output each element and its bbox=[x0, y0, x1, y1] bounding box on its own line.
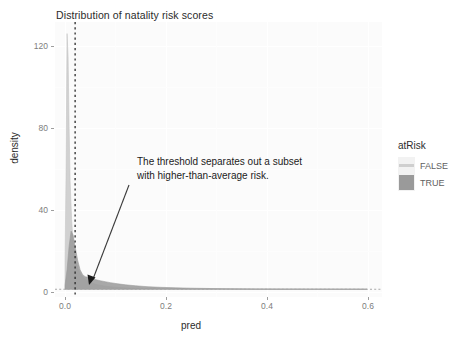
legend-label-false: FALSE bbox=[420, 161, 448, 171]
chart-title: Distribution of natality risk scores bbox=[56, 9, 213, 21]
x-tick-label-0.0: 0.0 bbox=[45, 301, 85, 311]
y-tick-label-80: 80 bbox=[14, 123, 48, 133]
annotation-text: The threshold separates out a subset wit… bbox=[137, 155, 302, 183]
y-tick-mark-80 bbox=[51, 128, 54, 129]
y-tick-mark-40 bbox=[51, 210, 54, 211]
legend-swatch-false bbox=[398, 157, 415, 174]
y-tick-label-40: 40 bbox=[14, 205, 48, 215]
x-tick-mark-0.4 bbox=[267, 297, 268, 300]
legend-item-false[interactable]: FALSE bbox=[398, 157, 448, 174]
chart-root: Distribution of natality risk scores den… bbox=[0, 0, 462, 344]
x-tick-label-0.6: 0.6 bbox=[348, 301, 388, 311]
y-tick-label-120: 120 bbox=[14, 41, 48, 51]
legend: atRisk FALSE TRUE bbox=[398, 140, 448, 191]
x-tick-mark-0.0 bbox=[65, 297, 66, 300]
y-tick-label-0: 0 bbox=[14, 287, 48, 297]
annotation-line-2: with higher-than-average risk. bbox=[137, 169, 302, 183]
x-tick-label-0.2: 0.2 bbox=[146, 301, 186, 311]
x-axis-label: pred bbox=[0, 320, 382, 331]
legend-item-true[interactable]: TRUE bbox=[398, 174, 448, 191]
annotation-line-1: The threshold separates out a subset bbox=[137, 155, 302, 169]
x-tick-mark-0.2 bbox=[166, 297, 167, 300]
legend-title: atRisk bbox=[398, 140, 448, 151]
x-tick-label-0.4: 0.4 bbox=[247, 301, 287, 311]
density-area-true bbox=[65, 231, 367, 289]
x-tick-mark-0.6 bbox=[368, 297, 369, 300]
y-tick-mark-120 bbox=[51, 46, 54, 47]
legend-swatch-true bbox=[398, 174, 415, 191]
legend-label-true: TRUE bbox=[420, 178, 445, 188]
y-tick-mark-0 bbox=[51, 292, 54, 293]
